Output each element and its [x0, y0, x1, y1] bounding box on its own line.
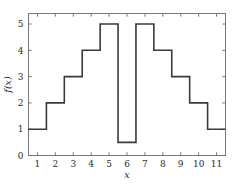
x-tick-label: 7: [142, 159, 148, 169]
y-tick-label: 3: [18, 72, 24, 82]
x-tick-label: 5: [106, 159, 112, 169]
y-tick-label: 0: [18, 151, 24, 161]
x-tick-label: 8: [160, 159, 166, 169]
chart-figure: 1234567891011012345xf(x) f(x) x: [0, 0, 240, 188]
x-tick-label: 9: [178, 159, 184, 169]
x-tick-label: 3: [70, 159, 76, 169]
plot-frame: [29, 14, 226, 156]
step-chart: 1234567891011012345xf(x): [0, 0, 240, 188]
x-axis-title-text: x: [124, 169, 130, 180]
y-tick-label: 1: [18, 124, 24, 134]
y-tick-label: 2: [18, 98, 24, 108]
x-tick-label: 11: [211, 159, 222, 169]
x-tick-label: 2: [52, 159, 58, 169]
x-tick-label: 1: [35, 159, 41, 169]
x-tick-label: 10: [193, 159, 205, 169]
y-tick-label: 5: [18, 19, 24, 29]
step-series-line: [29, 24, 226, 142]
x-tick-label: 6: [124, 159, 130, 169]
y-axis-title-text: f(x): [2, 76, 13, 94]
x-tick-label: 4: [88, 159, 94, 169]
y-tick-label: 4: [18, 46, 24, 56]
